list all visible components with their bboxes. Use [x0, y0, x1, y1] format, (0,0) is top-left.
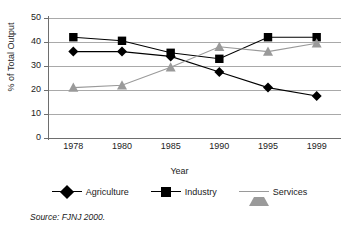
series-line: [73, 52, 316, 96]
data-point: [118, 37, 126, 45]
diamond-marker-icon: [60, 185, 74, 199]
data-point: [263, 83, 273, 93]
chart-figure: % of Total Output 01020304050 1978198019…: [0, 0, 359, 235]
data-point: [214, 42, 224, 51]
source-text: FJNJ 2000.: [62, 212, 105, 222]
square-marker-icon: [161, 187, 171, 197]
data-point: [214, 67, 224, 77]
legend-item-agriculture[interactable]: Agriculture: [52, 186, 129, 198]
data-point: [264, 33, 272, 41]
legend-label: Services: [273, 187, 308, 197]
x-axis-title: Year: [0, 166, 359, 176]
series-line: [73, 43, 316, 87]
data-point: [166, 49, 174, 57]
data-point: [215, 55, 223, 63]
source-note: Source: FJNJ 2000.: [30, 212, 105, 222]
source-prefix: Source:: [30, 212, 59, 222]
legend-label: Agriculture: [86, 187, 129, 197]
legend-key: [239, 186, 269, 198]
data-point: [69, 33, 77, 41]
legend-key: [52, 186, 82, 198]
legend-item-industry[interactable]: Industry: [151, 186, 217, 198]
series-agriculture: [68, 47, 321, 101]
legend-item-services[interactable]: Services: [239, 186, 308, 198]
data-point: [68, 47, 78, 57]
series-line: [73, 37, 316, 59]
triangle-marker-icon: [249, 187, 269, 206]
legend-key: [151, 186, 181, 198]
data-point: [117, 47, 127, 57]
data-point: [312, 91, 322, 101]
legend-label: Industry: [185, 187, 217, 197]
data-point: [166, 62, 176, 71]
chart-legend: AgricultureIndustryServices: [0, 186, 359, 198]
series-industry: [69, 33, 321, 63]
series-layer: [0, 0, 359, 235]
series-services: [68, 38, 321, 92]
